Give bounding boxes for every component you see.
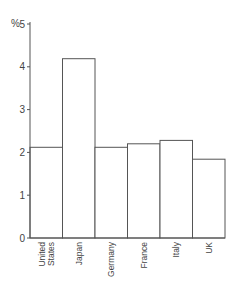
y-tick-label: 1 (19, 190, 25, 201)
y-tick-label: 2 (19, 147, 25, 158)
bar-germany (95, 147, 128, 238)
bars-group (30, 59, 225, 238)
y-tick-label: 0 (19, 233, 25, 244)
bar-uk (193, 159, 226, 238)
x-tick-label: France (139, 242, 149, 269)
bar-france (128, 144, 161, 238)
bar-japan (63, 59, 96, 238)
y-axis-unit-label: % (11, 18, 20, 29)
chart-canvas: 012345 UnitedStatesJapanGermanyFranceIta… (0, 0, 238, 288)
x-tick-label: States (46, 242, 56, 266)
x-tick-label: Japan (74, 242, 84, 265)
y-tick-label: 4 (19, 61, 25, 72)
bar-united-states (30, 147, 63, 238)
x-tick-label: Germany (106, 241, 116, 277)
bar-chart: 012345 UnitedStatesJapanGermanyFranceIta… (0, 0, 238, 288)
y-tick-label: 5 (19, 19, 25, 30)
y-axis: 012345 (19, 19, 30, 244)
bar-italy (160, 140, 193, 238)
x-tick-label: UK (204, 242, 214, 254)
x-tick-label: Italy (171, 241, 181, 257)
x-axis: UnitedStatesJapanGermanyFranceItalyUK (30, 238, 225, 277)
y-tick-label: 3 (19, 104, 25, 115)
